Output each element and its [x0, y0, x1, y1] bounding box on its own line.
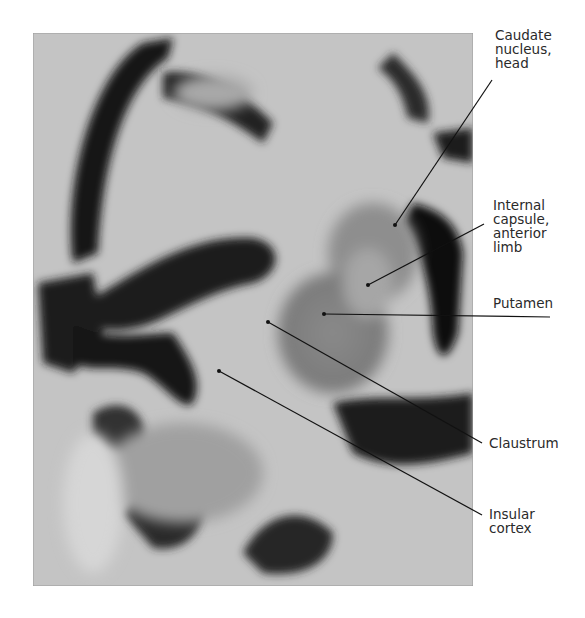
brain-scan-illustration: [33, 33, 473, 586]
mri-figure: Caudate nucleus, head Internal capsule, …: [0, 0, 585, 618]
label-putamen: Putamen: [493, 296, 553, 310]
label-caudate-nucleus-head: Caudate nucleus, head: [495, 28, 552, 70]
label-internal-capsule-anterior-limb: Internal capsule, anterior limb: [493, 198, 549, 254]
label-claustrum: Claustrum: [489, 436, 559, 450]
label-insular-cortex: Insular cortex: [489, 507, 535, 535]
mri-coronal-image: [33, 33, 473, 586]
